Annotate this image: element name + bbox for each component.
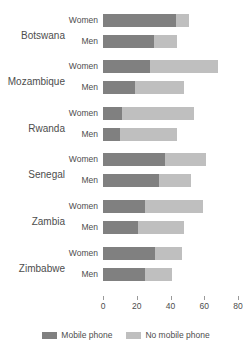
bar-segment-mobile-phone: [103, 268, 145, 281]
axis-tick-label: 20: [132, 301, 141, 311]
bar-segment-no-mobile-phone: [165, 153, 206, 166]
axis-tick: [238, 296, 239, 300]
chart-legend: Mobile phoneNo mobile phone: [0, 330, 252, 340]
legend-label: Mobile phone: [61, 330, 112, 340]
bar-segment-no-mobile-phone: [150, 60, 218, 73]
bar-row: [103, 174, 191, 187]
country-label: Rwanda: [0, 123, 65, 135]
gender-label: Women: [12, 60, 98, 73]
bar-segment-mobile-phone: [103, 81, 135, 94]
bar-segment-no-mobile-phone: [120, 128, 177, 141]
bar-row: [103, 107, 194, 120]
bar-segment-no-mobile-phone: [155, 247, 182, 260]
bar-segment-mobile-phone: [103, 174, 159, 187]
bar-row: [103, 14, 189, 27]
bar-row: [103, 221, 184, 234]
gender-label: Women: [12, 200, 98, 213]
bar-segment-mobile-phone: [103, 14, 176, 27]
country-label: Zimbabwe: [0, 263, 65, 275]
bar-segment-mobile-phone: [103, 60, 150, 73]
bar-row: [103, 128, 177, 141]
bar-segment-no-mobile-phone: [135, 81, 184, 94]
plot-area: WomenMenBotswanaWomenMenMozambiqueWomenM…: [103, 8, 238, 296]
axis-tick-label: 40: [166, 301, 175, 311]
bar-segment-no-mobile-phone: [176, 14, 190, 27]
legend-item: Mobile phone: [42, 330, 112, 340]
bar-segment-mobile-phone: [103, 153, 165, 166]
bar-row: [103, 81, 184, 94]
country-label: Mozambique: [0, 76, 65, 88]
bar-segment-mobile-phone: [103, 128, 120, 141]
bar-row: [103, 60, 218, 73]
stacked-bar-chart: WomenMenBotswanaWomenMenMozambiqueWomenM…: [0, 0, 252, 351]
gender-label: Women: [12, 153, 98, 166]
legend-label: No mobile phone: [145, 330, 209, 340]
bar-segment-no-mobile-phone: [159, 174, 191, 187]
bar-row: [103, 268, 172, 281]
bar-row: [103, 35, 177, 48]
bar-segment-no-mobile-phone: [154, 35, 178, 48]
bar-row: [103, 200, 203, 213]
axis-tick-label: 60: [200, 301, 209, 311]
country-label: Zambia: [0, 216, 65, 228]
gender-label: Women: [12, 107, 98, 120]
bar-segment-mobile-phone: [103, 35, 154, 48]
bar-row: [103, 153, 206, 166]
gender-label: Women: [12, 14, 98, 27]
bar-row: [103, 247, 182, 260]
legend-item: No mobile phone: [126, 330, 209, 340]
axis-tick-label: 0: [101, 301, 106, 311]
bar-segment-no-mobile-phone: [145, 200, 202, 213]
gender-label: Women: [12, 247, 98, 260]
bar-segment-mobile-phone: [103, 247, 155, 260]
bar-segment-no-mobile-phone: [145, 268, 172, 281]
bar-segment-mobile-phone: [103, 221, 138, 234]
bar-segment-mobile-phone: [103, 200, 145, 213]
bar-segment-mobile-phone: [103, 107, 122, 120]
axis-tick: [171, 296, 172, 300]
legend-swatch: [126, 332, 141, 339]
axis-tick-label: 80: [233, 301, 242, 311]
axis-tick: [137, 296, 138, 300]
x-axis: 020406080: [103, 296, 238, 318]
axis-tick: [103, 296, 104, 300]
country-label: Botswana: [0, 30, 65, 42]
axis-tick: [204, 296, 205, 300]
bar-segment-no-mobile-phone: [138, 221, 184, 234]
country-label: Senegal: [0, 169, 65, 181]
legend-swatch: [42, 332, 57, 339]
bar-segment-no-mobile-phone: [122, 107, 195, 120]
